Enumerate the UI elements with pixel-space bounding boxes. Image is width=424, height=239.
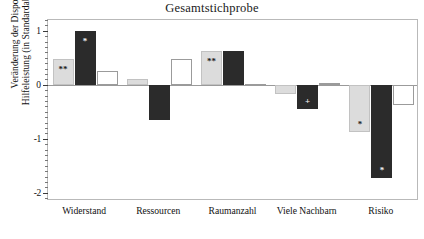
y-tick-minor — [45, 198, 48, 199]
x-category-label: Ressourcen — [136, 205, 180, 216]
y-tick-minor — [45, 58, 48, 59]
y-tick-minor — [45, 42, 48, 43]
y-tick-major — [43, 31, 48, 32]
significance-marker: + — [298, 97, 317, 106]
y-tick-major — [43, 193, 48, 194]
x-category-label: Risiko — [368, 205, 393, 216]
significance-marker: * — [350, 120, 369, 129]
y-tick-minor — [45, 74, 48, 75]
y-tick-minor — [45, 133, 48, 134]
y-tick-minor — [45, 150, 48, 151]
bar-widerstand-s2[interactable]: * — [75, 31, 96, 85]
y-tick-minor — [45, 187, 48, 188]
y-tick-minor — [45, 36, 48, 37]
y-tick-minor — [45, 63, 48, 64]
x-category-label: Raumanzahl — [209, 205, 257, 216]
bar-viele-nachbarn-s1[interactable] — [275, 85, 296, 94]
bar-risiko-s3[interactable] — [393, 85, 414, 105]
significance-marker: ** — [54, 65, 73, 74]
chart-title: Gesamtstichprobe — [0, 1, 424, 16]
y-tick-minor — [45, 117, 48, 118]
y-tick-label: -2 — [15, 188, 41, 198]
bar-raumanzahl-s3[interactable] — [245, 84, 266, 86]
x-category-label: Widerstand — [62, 205, 106, 216]
y-tick-minor — [45, 106, 48, 107]
y-tick-minor — [45, 177, 48, 178]
y-tick-label: -1 — [15, 134, 41, 144]
y-tick-minor — [45, 155, 48, 156]
bar-viele-nachbarn-s2[interactable]: + — [297, 85, 318, 109]
y-tick-label: 0 — [15, 80, 41, 90]
y-tick-minor — [45, 52, 48, 53]
y-tick-minor — [45, 96, 48, 97]
y-tick-minor — [45, 128, 48, 129]
bar-ressourcen-s1[interactable] — [127, 79, 148, 84]
y-tick-minor — [45, 25, 48, 26]
significance-marker: * — [372, 166, 391, 175]
y-tick-minor — [45, 166, 48, 167]
x-category-label: Viele Nachbarn — [277, 205, 337, 216]
y-tick-minor — [45, 160, 48, 161]
bar-ressourcen-s3[interactable] — [171, 59, 192, 84]
y-tick-minor — [45, 69, 48, 70]
y-tick-label: 1 — [15, 26, 41, 36]
bar-risiko-s1[interactable]: * — [349, 85, 370, 132]
y-tick-minor — [45, 182, 48, 183]
y-tick-minor — [45, 47, 48, 48]
y-tick-major — [43, 139, 48, 140]
chart-figure: Gesamtstichprobe Veränderung der Disposi… — [0, 0, 424, 239]
significance-marker: ** — [202, 57, 221, 66]
bar-ressourcen-s2[interactable] — [149, 85, 170, 120]
y-tick-minor — [45, 90, 48, 91]
bar-viele-nachbarn-s3[interactable] — [319, 83, 340, 85]
y-axis-title: Veränderung der Disposition zur Hilfelei… — [6, 0, 34, 131]
bar-risiko-s2[interactable]: * — [371, 85, 392, 178]
y-tick-minor — [45, 123, 48, 124]
plot-area: 10-1-2*****+** — [47, 19, 418, 200]
bar-widerstand-s1[interactable]: ** — [53, 59, 74, 84]
y-tick-minor — [45, 20, 48, 21]
bar-raumanzahl-s2[interactable] — [223, 51, 244, 84]
bar-widerstand-s3[interactable] — [97, 71, 118, 85]
significance-marker: * — [76, 37, 95, 46]
bar-raumanzahl-s1[interactable]: ** — [201, 51, 222, 84]
y-tick-minor — [45, 79, 48, 80]
y-tick-minor — [45, 144, 48, 145]
y-tick-minor — [45, 171, 48, 172]
y-tick-minor — [45, 112, 48, 113]
y-tick-minor — [45, 101, 48, 102]
y-tick-major — [43, 85, 48, 86]
